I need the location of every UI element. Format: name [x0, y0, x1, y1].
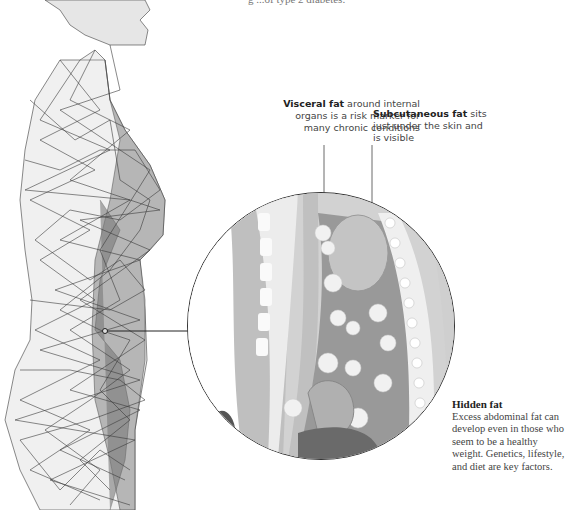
- subcutaneous-fat-label: Subcutaneous fat sits just under the ski…: [373, 108, 493, 144]
- abdomen-anatomy-illustration: [188, 193, 454, 459]
- abdomen-cross-section-lens: [187, 192, 455, 460]
- hidden-fat-title: Hidden fat: [452, 398, 567, 411]
- wireframe-body-figure: [0, 0, 200, 510]
- hidden-fat-caption: Hidden fat Excess abdominal fat can deve…: [452, 398, 567, 473]
- visceral-fat-term: Visceral fat: [283, 98, 344, 109]
- clipped-top-text: g ...of type 2 diabetes.: [248, 0, 567, 5]
- hidden-fat-body: Excess abdominal fat can develop even in…: [452, 411, 567, 474]
- callout-connector-line: [105, 326, 195, 336]
- subcutaneous-fat-term: Subcutaneous fat: [373, 108, 467, 119]
